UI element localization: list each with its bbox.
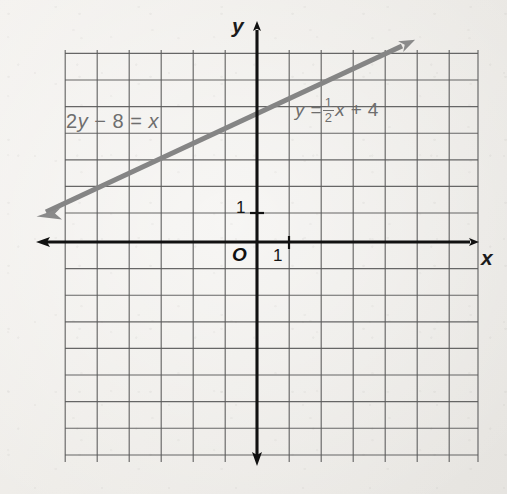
equation-standard-minus: − xyxy=(94,110,106,132)
equation-slope-var-y: y xyxy=(295,99,305,120)
equation-label-standard-form: 2y − 8 = x xyxy=(66,110,159,133)
equation-label-slope-intercept-form: y =12x + 4 xyxy=(295,97,379,125)
equation-slope-numerator: 1 xyxy=(323,96,335,110)
equation-standard-coef: 2 xyxy=(66,110,78,132)
equation-slope-fraction: 12 xyxy=(323,96,335,124)
axes-group xyxy=(36,30,470,466)
equation-standard-constant: 8 xyxy=(112,110,124,132)
equation-standard-equals: = xyxy=(130,110,142,132)
graph-figure: 2y − 8 = x y =12x + 4 y x O 1 1 xyxy=(0,0,507,494)
origin-label: O xyxy=(232,244,247,266)
y-axis-tick-label-one: 1 xyxy=(236,198,245,218)
equation-slope-denominator: 2 xyxy=(323,110,335,125)
equation-standard-var-y: y xyxy=(78,110,89,132)
equation-slope-plus: + xyxy=(351,99,362,120)
equation-slope-equals: = xyxy=(310,99,321,120)
coordinate-plane-svg xyxy=(0,0,507,494)
equation-standard-var-x: x xyxy=(148,110,159,132)
x-axis-tick-label-one: 1 xyxy=(273,246,282,266)
y-axis-label: y xyxy=(232,14,244,38)
equation-slope-var-x: x xyxy=(335,99,345,120)
equation-slope-intercept-value: 4 xyxy=(368,99,379,120)
x-axis-label: x xyxy=(481,246,493,270)
